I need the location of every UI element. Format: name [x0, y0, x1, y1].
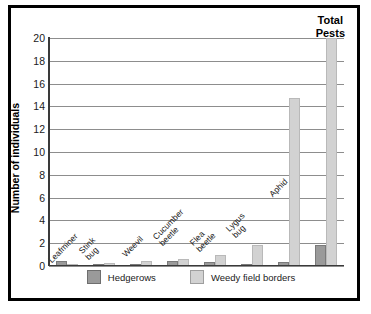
chart-figure: Total Pests Number of individuals 024681… [8, 5, 360, 301]
y-axis-title: Number of individuals [9, 103, 21, 213]
y-tick-label-8: 8 [39, 169, 45, 181]
legend-swatch [190, 270, 204, 284]
legend-item[interactable]: Weedy field borders [190, 270, 295, 284]
bar [315, 245, 326, 266]
plot-area: 02468101214161820 LeafminerStinkbugWeevi… [49, 38, 344, 266]
legend-swatch [87, 270, 101, 284]
y-tick-label-6: 6 [39, 192, 45, 204]
total-pests-title: Total Pests [316, 14, 345, 39]
bar [252, 245, 263, 266]
legend-item[interactable]: Hedgerows [87, 270, 156, 284]
legend-label: Hedgerows [108, 272, 156, 283]
legend-label: Weedy field borders [211, 272, 295, 283]
y-tick-label-0: 0 [39, 260, 45, 272]
y-axis-line [48, 37, 50, 266]
y-tick-label-12: 12 [33, 123, 45, 135]
y-tick-label-4: 4 [39, 214, 45, 226]
bar-group [270, 38, 307, 266]
y-tick-label-10: 10 [33, 146, 45, 158]
y-tick-label-16: 16 [33, 78, 45, 90]
y-tick-label-2: 2 [39, 237, 45, 249]
bar [289, 98, 300, 266]
bar-group [86, 38, 123, 266]
bar-group [307, 38, 344, 266]
bar [326, 38, 337, 266]
bar-group [49, 38, 86, 266]
chart-legend: HedgerowsWeedy field borders [61, 265, 321, 289]
plot-inner: 02468101214161820 LeafminerStinkbugWeevi… [49, 38, 344, 266]
y-tick-label-14: 14 [33, 100, 45, 112]
total-pests-title-line1: Total [316, 14, 345, 27]
y-tick-label-20: 20 [33, 32, 45, 44]
y-tick-label-18: 18 [33, 55, 45, 67]
